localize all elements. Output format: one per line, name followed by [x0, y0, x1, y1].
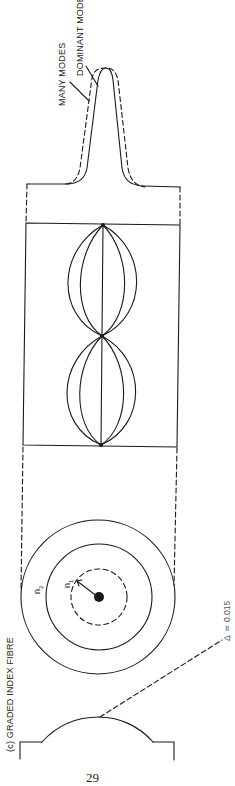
- core-index-label: n 1: [62, 579, 74, 588]
- radius-arrow: [77, 581, 98, 597]
- svg-text:0.015: 0.015: [222, 600, 232, 622]
- svg-text:≃: ≃: [222, 624, 232, 632]
- profile-right-edge: [153, 742, 174, 760]
- profile-curve: [42, 717, 153, 742]
- many-modes-label: MANY MODES: [57, 43, 67, 106]
- svg-text:2: 2: [38, 585, 44, 589]
- ray-inner-left-2: [80, 336, 102, 445]
- focus-point-2: [100, 334, 104, 338]
- guide-right-bottom: [174, 448, 177, 585]
- many-modes-curve: [66, 68, 145, 187]
- ray-outer-left-2: [67, 336, 102, 445]
- delta-annotation: Δ ≃ 0.015: [222, 600, 232, 641]
- pulse-baseline-right: [143, 186, 180, 187]
- focus-point-1: [101, 223, 105, 227]
- dominant-mode-label: DOMINANT MODE: [75, 0, 85, 76]
- focus-point-3: [99, 443, 103, 447]
- fibre-cross-section: [21, 520, 175, 674]
- page-number: 29: [86, 770, 99, 785]
- ray-outer-left-1: [68, 225, 103, 336]
- svg-text:1: 1: [68, 579, 74, 583]
- many-modes-leader: [70, 82, 89, 101]
- fibre-centre: [94, 592, 104, 602]
- guide-left-bottom: [21, 447, 23, 590]
- ray-inner-right-2: [101, 336, 124, 445]
- ray-inner-left-1: [80, 225, 103, 336]
- svg-text:Δ: Δ: [222, 635, 232, 641]
- ray-inner-right-1: [102, 225, 125, 336]
- graded-index-fibre-figure: MANY MODES DOMINANT MODE n 2 n 1 Δ ≃ 0.0…: [0, 0, 235, 786]
- output-pulse: [27, 66, 180, 187]
- dominant-mode-curve: [68, 68, 143, 186]
- dominant-mode-leader: [86, 66, 98, 86]
- ray-paths-panel: [23, 223, 180, 447]
- guide-left-top: [26, 184, 27, 223]
- profile-left-edge: [20, 742, 42, 759]
- ray-outer-right-1: [102, 225, 137, 336]
- ray-outer-right-2: [101, 336, 136, 445]
- figure-caption: (c) GRADED INDEX FIBRE: [5, 637, 15, 752]
- cladding-index-label: n 2: [32, 585, 44, 594]
- delta-leader: [100, 640, 222, 717]
